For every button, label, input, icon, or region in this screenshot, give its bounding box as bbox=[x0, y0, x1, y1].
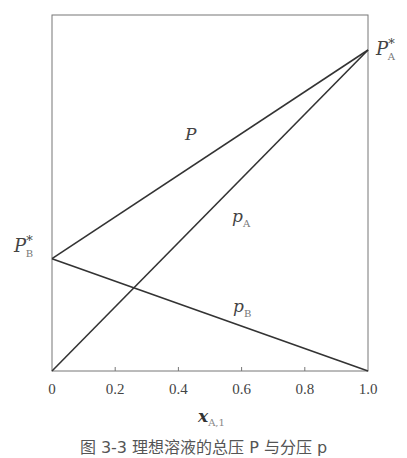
label-partial-pressure-pa: pA bbox=[232, 206, 251, 229]
series-line-p-a bbox=[52, 50, 368, 371]
x-tick-label: 0.4 bbox=[169, 381, 188, 397]
label-pb-star: P*B bbox=[13, 233, 33, 259]
series-line-p bbox=[52, 50, 368, 259]
x-axis-label: xA,1 bbox=[197, 406, 225, 428]
label-partial-pressure-pb: pB bbox=[233, 296, 251, 319]
x-tick-label: 0 bbox=[48, 381, 56, 397]
x-tick-label: 0.8 bbox=[295, 381, 314, 397]
figure-caption: 图 3-3 理想溶液的总压 P 与分压 p bbox=[0, 434, 407, 458]
series-line-p-b bbox=[52, 259, 368, 371]
x-tick-label: 0.6 bbox=[232, 381, 251, 397]
x-tick-label: 1.0 bbox=[359, 381, 378, 397]
label-total-pressure-p: P bbox=[184, 124, 197, 144]
x-tick-label: 0.2 bbox=[106, 381, 125, 397]
label-pa-star: P*A bbox=[375, 36, 396, 62]
plot-frame bbox=[52, 15, 368, 371]
